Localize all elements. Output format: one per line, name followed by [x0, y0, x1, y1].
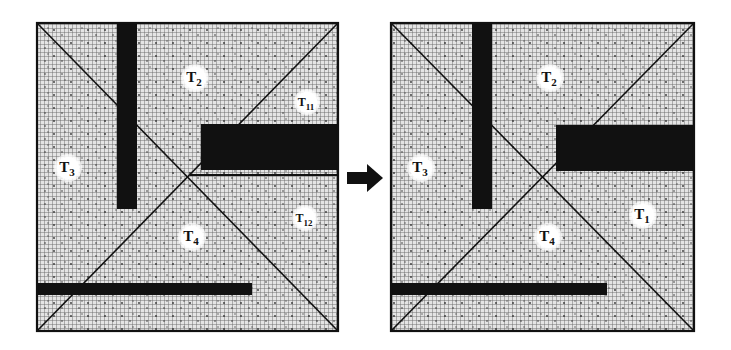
- obstacle-vertical: [117, 23, 137, 209]
- arrow-right-icon: [347, 164, 383, 192]
- region-label-t2: T2: [536, 64, 564, 92]
- region-label-t1: T1: [629, 201, 657, 229]
- region-label-t4: T4: [534, 223, 562, 251]
- region-label-t3: T3: [54, 154, 82, 182]
- diagram-canvas: T2T3T4T11T12 T2T3T4T1: [0, 0, 731, 350]
- obstacle-horizontal: [37, 283, 252, 295]
- region-label-t2: T2: [181, 64, 209, 92]
- obstacle-horizontal: [391, 283, 607, 295]
- panel-after: T2T3T4T1: [391, 23, 694, 331]
- obstacle-rect: [201, 124, 338, 170]
- region-label-t12: T12: [292, 205, 318, 231]
- region-label-t4: T4: [178, 223, 206, 251]
- panel-before: T2T3T4T11T12: [37, 23, 338, 331]
- region-label-t3: T3: [407, 154, 435, 182]
- obstacle-vertical: [472, 23, 492, 209]
- obstacle-rect: [556, 125, 694, 171]
- region-label-t11: T11: [294, 89, 320, 115]
